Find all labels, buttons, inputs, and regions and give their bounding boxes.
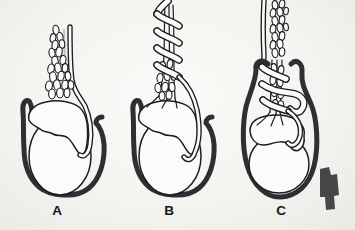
panel-c-figure (243, 0, 317, 197)
figure-canvas: A B C (0, 0, 355, 230)
cord-tube-top (260, 0, 264, 66)
scrotum-unit (133, 101, 214, 196)
pampiniform-plexus-top (270, 0, 289, 58)
panel-a-figure (23, 25, 104, 195)
panel-label-a: A (52, 203, 62, 218)
panel-label-b: B (164, 203, 174, 218)
intravaginal-twisted-cord (262, 67, 304, 112)
print-artifact (320, 167, 339, 210)
testicular-torsion-stages-figure: A B C (0, 0, 355, 230)
panel-b-figure (133, 1, 214, 195)
panel-label-c: C (276, 203, 286, 218)
